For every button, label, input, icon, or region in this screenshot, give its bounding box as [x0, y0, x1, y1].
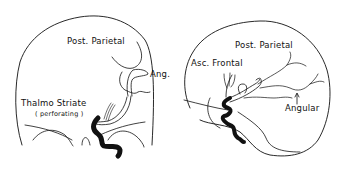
label-perforating: ( perforating )	[35, 110, 84, 118]
internal-carotid-left	[94, 118, 121, 156]
asc-frontal-branch	[224, 74, 227, 88]
label-angular-left: Ang.	[150, 69, 170, 79]
angular-artery-right	[260, 74, 324, 90]
label-thalmo-striate: Thalmo Striate	[21, 98, 87, 108]
skull-base-line	[82, 137, 90, 145]
label-asc-frontal: Asc. Frontal	[191, 58, 243, 68]
asc-frontal-branch	[229, 73, 230, 86]
post-parietal-artery-right	[258, 52, 306, 84]
label-angular-right: Angular	[285, 103, 319, 113]
temporal-line	[208, 98, 220, 128]
skull-base-line	[25, 125, 72, 140]
perforating-branch	[106, 104, 113, 120]
label-post-parietal-left: Post. Parietal	[67, 36, 125, 46]
label-post-parietal-right: Post. Parietal	[235, 40, 293, 50]
diagram-canvas	[0, 0, 339, 169]
artery-loop	[238, 84, 246, 94]
temporal-line	[238, 112, 300, 152]
skull-base-line	[100, 122, 145, 135]
skull-base-line	[33, 130, 73, 146]
middle-cerebral-artery-right	[229, 78, 260, 98]
perforating-branch	[104, 103, 111, 119]
asc-frontal-branch	[231, 75, 235, 87]
middle-cerebral-artery-left-inner	[96, 96, 131, 125]
posterior-temporal-branch	[244, 97, 292, 98]
internal-carotid-right	[223, 98, 244, 142]
temporal-line	[184, 100, 228, 110]
